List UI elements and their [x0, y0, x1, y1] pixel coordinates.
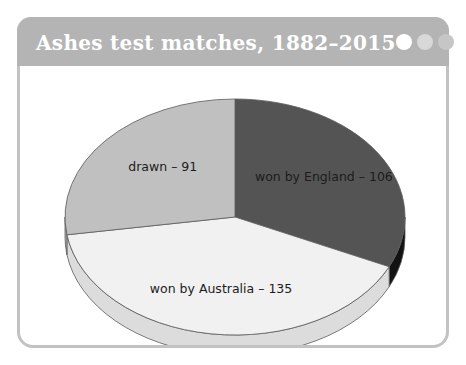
pie-chart-svg: won by England – 106won by Australia – 1… — [20, 66, 446, 345]
window-frame: Ashes test matches, 1882–2015 won by Eng… — [17, 17, 449, 348]
window-dot-2-icon[interactable] — [417, 34, 433, 50]
title-bar: Ashes test matches, 1882–2015 — [17, 17, 449, 66]
pie-label-won-by-england: won by England – 106 — [255, 169, 393, 184]
pie-label-won-by-australia: won by Australia – 135 — [150, 281, 292, 296]
window-dot-1-icon[interactable] — [396, 34, 412, 50]
window-dot-3-icon[interactable] — [438, 34, 454, 50]
page-title: Ashes test matches, 1882–2015 — [36, 33, 396, 53]
pie-chart: won by England – 106won by Australia – 1… — [20, 66, 446, 345]
pie-slices — [65, 99, 405, 335]
pie-label-drawn: drawn – 91 — [128, 159, 197, 174]
window-controls — [396, 34, 454, 50]
